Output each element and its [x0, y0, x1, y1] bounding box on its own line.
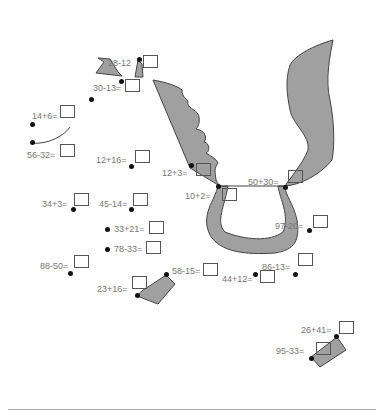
problem-label: 95-33=: [276, 346, 304, 356]
connect-dot[interactable]: [30, 140, 35, 145]
connect-dot[interactable]: [283, 185, 288, 190]
answer-box[interactable]: [316, 342, 331, 355]
body-shape: [207, 186, 298, 254]
connect-dot[interactable]: [71, 207, 76, 212]
answer-box[interactable]: [125, 79, 140, 92]
connect-dot[interactable]: [30, 122, 35, 127]
problem-label: 23+16=: [97, 284, 128, 294]
answer-box[interactable]: [260, 270, 275, 283]
answer-box[interactable]: [222, 188, 237, 201]
connect-dot[interactable]: [135, 293, 140, 298]
answer-box[interactable]: [196, 163, 211, 176]
problem-label: 30-13=: [93, 83, 121, 93]
answer-box[interactable]: [339, 321, 354, 334]
problem-label: 78-33=: [114, 244, 142, 254]
connect-dot[interactable]: [129, 207, 134, 212]
problem-label: 56-32=: [27, 150, 55, 160]
answer-box[interactable]: [203, 263, 218, 276]
tail-shape: [285, 40, 334, 186]
answer-box[interactable]: [135, 150, 150, 163]
connect-dot[interactable]: [253, 272, 258, 277]
answer-box[interactable]: [74, 193, 89, 206]
guide-curve: [32, 127, 70, 143]
connect-dot[interactable]: [164, 272, 169, 277]
connect-dot[interactable]: [89, 97, 94, 102]
connect-dot[interactable]: [137, 57, 142, 62]
answer-box[interactable]: [60, 105, 75, 118]
problem-label: 34+3=: [42, 199, 68, 209]
connect-dot[interactable]: [105, 227, 110, 232]
answer-box[interactable]: [288, 170, 303, 183]
problem-label: 14+6=: [32, 111, 58, 121]
connect-dot[interactable]: [334, 334, 339, 339]
answer-box[interactable]: [74, 255, 89, 268]
answer-box[interactable]: [133, 193, 148, 206]
problem-label: 26+41=: [301, 325, 332, 335]
problem-label: 10+2=: [185, 191, 211, 201]
problem-label: 12+3=: [162, 168, 188, 178]
connect-dot[interactable]: [189, 163, 194, 168]
connect-dot[interactable]: [129, 164, 134, 169]
connect-dot[interactable]: [119, 79, 124, 84]
problem-label: 12+16=: [96, 155, 127, 165]
answer-box[interactable]: [313, 215, 328, 228]
problem-label: 50+30=: [248, 177, 279, 187]
connect-dot[interactable]: [309, 356, 314, 361]
divider-line: [8, 409, 376, 410]
answer-box[interactable]: [149, 221, 164, 234]
problem-label: 28-12: [108, 58, 131, 68]
dot-to-dot-worksheet: 28-12 30-13= 14+6= 56-32= 12+16= 12+3= 1…: [0, 0, 383, 414]
ear-shape-right: [135, 60, 143, 77]
answer-box[interactable]: [298, 253, 313, 266]
problem-label: 44+12=: [222, 274, 253, 284]
connect-dot[interactable]: [68, 271, 73, 276]
connect-dot[interactable]: [307, 228, 312, 233]
connect-dot[interactable]: [105, 247, 110, 252]
problem-label: 58-15=: [172, 266, 200, 276]
answer-box[interactable]: [60, 144, 75, 157]
problem-label: 97-20=: [275, 221, 303, 231]
answer-box[interactable]: [132, 276, 147, 289]
problem-label: 88-50=: [40, 261, 68, 271]
answer-box[interactable]: [146, 241, 161, 254]
answer-box[interactable]: [143, 55, 158, 68]
connect-dot[interactable]: [293, 272, 298, 277]
problem-label: 45-14=: [99, 199, 127, 209]
problem-label: 33+21=: [114, 224, 145, 234]
connect-dot[interactable]: [216, 184, 221, 189]
